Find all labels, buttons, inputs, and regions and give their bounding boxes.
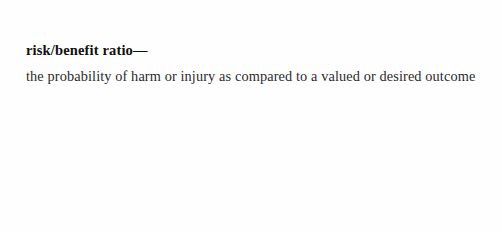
entry-headword: risk/benefit ratio—	[26, 42, 492, 59]
glossary-entry: risk/benefit ratio— the probability of h…	[26, 42, 492, 85]
document-page: risk/benefit ratio— the probability of h…	[0, 0, 502, 232]
entry-definition: the probability of harm or injury as com…	[26, 67, 492, 85]
